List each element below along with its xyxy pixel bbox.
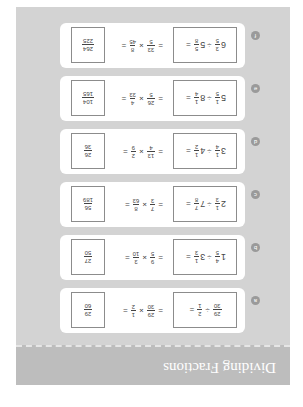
numerator: 4	[215, 257, 220, 265]
numerator: 8	[133, 205, 138, 213]
whole-number: 7	[200, 199, 205, 209]
fraction: 845	[129, 39, 136, 54]
whole-number: 4	[200, 146, 205, 156]
problem-label-badge: e	[251, 84, 260, 93]
equals-sign: =	[125, 201, 130, 210]
reciprocal-step: =134×29=	[115, 135, 165, 169]
denominator: 5	[149, 92, 152, 99]
denominator: 8	[195, 197, 198, 204]
equals-sign: =	[125, 254, 130, 263]
worksheet-panel: Dividing Fractions a2930÷21==2930×12=296…	[16, 7, 290, 385]
numerator: 104	[82, 98, 94, 106]
times-sign: ×	[139, 95, 144, 104]
question-box: 314÷412=	[173, 133, 237, 169]
answer-box[interactable]: 56189	[71, 186, 105, 222]
answer-box[interactable]: 2750	[71, 239, 105, 275]
equals-sign: =	[158, 254, 163, 263]
denominator: 36	[85, 144, 92, 151]
numerator: 8	[130, 46, 135, 54]
denominator: 8	[195, 38, 198, 45]
fraction: 12	[131, 304, 136, 319]
whole-number: 8	[200, 93, 205, 103]
denominator: 3	[195, 250, 198, 257]
equals-sign: =	[158, 201, 163, 210]
reciprocal-step: =265×433=	[115, 82, 165, 116]
denominator: 33	[129, 92, 136, 99]
answer-box[interactable]: 264225	[71, 27, 105, 63]
divide-sign: ÷	[207, 94, 211, 103]
equals-sign: =	[123, 148, 128, 157]
numerator: 29	[213, 310, 222, 318]
fraction: 433	[129, 92, 136, 107]
problem-card: b145÷313==95×310=2750	[60, 235, 245, 280]
denominator: 5	[216, 91, 219, 98]
equals-sign: =	[186, 41, 191, 50]
whole-number: 6	[221, 40, 226, 50]
numerator: 26	[84, 151, 93, 159]
divide-sign: ÷	[207, 200, 211, 209]
numerator: 56	[84, 204, 93, 212]
times-sign: ×	[139, 148, 144, 157]
equals-sign: =	[158, 95, 163, 104]
fraction: 863	[133, 198, 140, 213]
fraction: 21	[197, 303, 202, 318]
problem-card: c213÷778==73×863=56189	[60, 182, 245, 227]
numerator: 264	[82, 45, 94, 53]
question-box: 145÷313=	[173, 239, 237, 275]
denominator: 10	[133, 251, 140, 258]
answer-box[interactable]: 2636	[71, 133, 105, 169]
answer-box[interactable]: 2960	[71, 292, 105, 328]
equals-sign: =	[158, 307, 163, 316]
divide-sign: ÷	[207, 253, 211, 262]
numerator: 29	[147, 311, 156, 319]
fraction: 2636	[84, 144, 93, 159]
fraction: 78	[194, 197, 199, 212]
numerator: 27	[84, 257, 93, 265]
fraction: 45	[215, 250, 220, 265]
problem-label-badge: d	[251, 137, 260, 146]
fraction: 56189	[83, 197, 93, 212]
fraction: 104165	[82, 91, 94, 106]
denominator: 4	[149, 145, 152, 152]
fraction: 2750	[84, 250, 93, 265]
fraction: 15	[215, 91, 220, 106]
denominator: 3	[216, 197, 219, 204]
fraction: 14	[215, 144, 220, 159]
divide-sign: ÷	[207, 147, 211, 156]
whole-number: 3	[200, 252, 205, 262]
numerator: 1	[215, 98, 220, 106]
fraction: 2960	[84, 303, 93, 318]
denominator: 9	[132, 145, 135, 152]
equals-sign: =	[186, 253, 191, 262]
equals-sign: =	[122, 95, 127, 104]
denominator: 4	[195, 91, 198, 98]
answer-box[interactable]: 104165	[71, 80, 105, 116]
numerator: 1	[194, 98, 199, 106]
numerator: 1	[194, 151, 199, 159]
problem-card: f635÷558==335×845=264225	[60, 23, 245, 68]
numerator: 1	[131, 311, 136, 319]
denominator: 225	[83, 38, 93, 45]
denominator: 1	[198, 303, 201, 310]
fraction: 310	[133, 251, 140, 266]
question-box: 635÷558=	[173, 27, 237, 63]
reciprocal-step: =73×863=	[115, 188, 165, 222]
whole-number: 1	[221, 252, 226, 262]
denominator: 50	[85, 250, 92, 257]
equals-sign: =	[158, 148, 163, 157]
fraction: 265	[147, 92, 156, 107]
numerator: 3	[133, 258, 138, 266]
denominator: 5	[216, 38, 219, 45]
denominator: 63	[133, 198, 140, 205]
whole-number: 2	[221, 199, 226, 209]
reciprocal-step: =2930×12=	[115, 294, 165, 328]
equals-sign: =	[186, 200, 191, 209]
denominator: 45	[129, 39, 136, 46]
numerator: 1	[215, 204, 220, 212]
fraction: 58	[194, 38, 199, 53]
fraction: 2930	[213, 303, 222, 318]
divide-sign: ÷	[205, 306, 209, 315]
fraction: 29	[131, 145, 136, 160]
problem-card: d314÷412==134×29=2636	[60, 129, 245, 174]
denominator: 5	[149, 39, 152, 46]
